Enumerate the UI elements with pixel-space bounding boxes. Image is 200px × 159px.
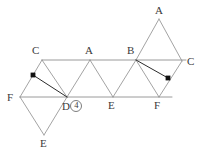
triangle-strip-edges [20, 60, 182, 97]
edge-fleft-ebottom [20, 97, 44, 135]
top-triangle-edges [136, 19, 182, 61]
edge-cright-fright [159, 61, 182, 97]
edge-amid-emid [90, 60, 113, 97]
step-badge-4: 4 [70, 100, 82, 112]
vertex-label-d-text: D [62, 101, 70, 112]
edge-bmid-fright [136, 60, 159, 97]
marker-right-dot [166, 76, 171, 81]
chord-b-to-marker-right [136, 60, 168, 78]
chord-marker-left-to-d [33, 75, 67, 97]
edge-atop-cright [159, 19, 182, 61]
vertex-label-b-mid: B [127, 45, 134, 56]
vertex-label-c-right: C [187, 56, 194, 67]
edge-amid-dcenter [67, 60, 90, 97]
net-diagram-svg [0, 0, 200, 159]
bottom-triangle-edges [20, 97, 67, 135]
marker-left-dot [31, 73, 36, 78]
vertex-label-d-center: D 4 [62, 100, 82, 112]
vertex-label-c-left: C [32, 45, 39, 56]
vertex-label-a-mid: A [85, 45, 93, 56]
vertex-label-e-mid: E [108, 100, 115, 111]
vertex-label-f-left: F [7, 92, 13, 103]
rails-group [20, 60, 186, 97]
edge-cleft-dcenter [42, 60, 67, 97]
edge-atop-bmid [136, 19, 159, 60]
edge-bmid-emid [113, 60, 136, 97]
vertex-label-e-bottom: E [40, 138, 47, 149]
figure-canvas: C A B A C F D 4 E F E [0, 0, 200, 159]
vertex-label-a-top: A [155, 5, 163, 16]
vertex-label-f-right: F [154, 100, 160, 111]
